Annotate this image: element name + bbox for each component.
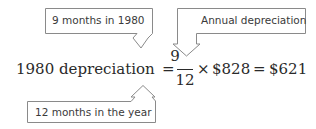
equation-lhs: 1980 depreciation (16, 62, 155, 77)
equation-times: × (197, 62, 210, 77)
fraction-bar (177, 69, 193, 70)
fraction-denominator: 12 (175, 73, 195, 88)
callout-months-year-label: 12 months in the year (35, 107, 152, 118)
equation-equals-2: = (253, 62, 266, 77)
equation-annual-amount: $828 (212, 62, 250, 77)
callout-months-1980-label: 9 months in 1980 (52, 15, 145, 26)
fraction-numerator: 9 (165, 49, 185, 64)
callout-annual-depreciation-label: Annual depreciation (201, 15, 306, 26)
equation-result: $621 (269, 62, 307, 77)
